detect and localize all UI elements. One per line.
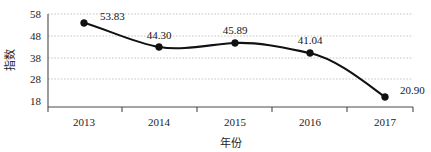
x-tick-label: 2016: [299, 116, 322, 128]
data-label: 45.89: [223, 24, 248, 36]
data-point-marker[interactable]: [307, 50, 314, 57]
data-point-marker[interactable]: [232, 40, 239, 47]
data-label: 41.04: [298, 34, 323, 46]
y-tick-label: 18: [30, 95, 42, 107]
y-tick-label: 48: [30, 30, 42, 42]
data-label: 20.90: [400, 84, 425, 96]
x-tick-label: 2015: [224, 116, 247, 128]
x-axis-title: 年份: [220, 136, 242, 150]
y-tick-label: 38: [30, 52, 42, 64]
x-tick-label: 2014: [148, 116, 171, 128]
x-axis-tick-labels: 2013 2014 2015 2016 2017: [73, 116, 397, 128]
y-axis-tick-labels: 58 48 38 28 18: [30, 8, 42, 107]
data-point-marker[interactable]: [156, 44, 163, 51]
data-point-marker[interactable]: [382, 94, 389, 101]
x-axis-tick-marks: [48, 107, 413, 112]
data-label: 53.83: [100, 10, 125, 22]
data-label: 44.30: [147, 29, 172, 41]
y-tick-label: 28: [30, 73, 42, 85]
y-axis-title: 指数: [3, 49, 17, 71]
y-tick-label: 58: [30, 8, 42, 20]
chart-canvas: 58 48 38 28 18 指数 2013 2014 2015 2016 20…: [0, 0, 431, 152]
data-point-marker[interactable]: [81, 20, 88, 27]
x-tick-label: 2017: [374, 116, 397, 128]
x-tick-label: 2013: [73, 116, 96, 128]
line-chart: 58 48 38 28 18 指数 2013 2014 2015 2016 20…: [0, 0, 431, 152]
